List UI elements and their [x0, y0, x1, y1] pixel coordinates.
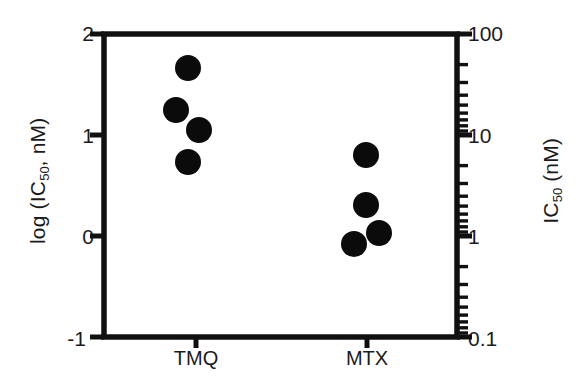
- data-point: [163, 97, 189, 123]
- data-point: [366, 220, 392, 246]
- plot-frame: [101, 33, 460, 338]
- data-point: [186, 117, 212, 143]
- series-mtx-points: [341, 142, 392, 257]
- series-tmq-points: [163, 55, 212, 175]
- plot-canvas: [0, 0, 581, 382]
- data-point: [175, 55, 201, 81]
- data-point: [353, 192, 379, 218]
- scatter-plot-figure: log (IC50, nM) IC50 (nM) 2 1 0 -1 100 10…: [0, 0, 581, 382]
- data-point: [353, 142, 379, 168]
- data-point: [341, 231, 367, 257]
- data-point: [175, 149, 201, 175]
